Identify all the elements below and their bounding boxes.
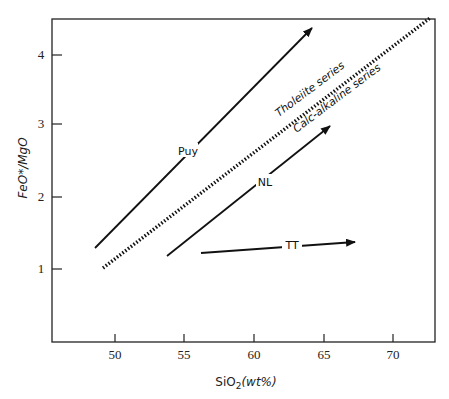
y-tick-label: 4 [38,47,45,62]
x-tick-label: 55 [178,347,191,362]
tt-label: TT [284,239,299,252]
x-axis-title: SiO2(wt%) [215,375,276,391]
tt-trend-arrow [201,242,355,253]
chart-canvas: 50 55 60 65 70 1 2 3 4 SiO2(wt%) FeO*/Mg… [0,0,449,399]
y-axis-title: FeO*/MgO [16,137,30,198]
tholeiite-calc-alkaline-boundary [103,18,430,268]
y-tick-label: 2 [38,189,45,204]
y-tick-label: 3 [38,116,45,131]
x-tick-label: 70 [387,347,400,362]
puy-label: Puy [178,145,198,158]
x-tick-label: 50 [109,347,122,362]
x-tick-label: 65 [318,347,331,362]
y-axis-ticks [52,55,62,269]
nl-label: NL [258,176,273,189]
x-tick-label: 60 [248,347,261,362]
y-tick-label: 1 [38,261,45,276]
puy-trend-arrow [95,28,312,248]
x-axis-ticks [115,334,393,342]
